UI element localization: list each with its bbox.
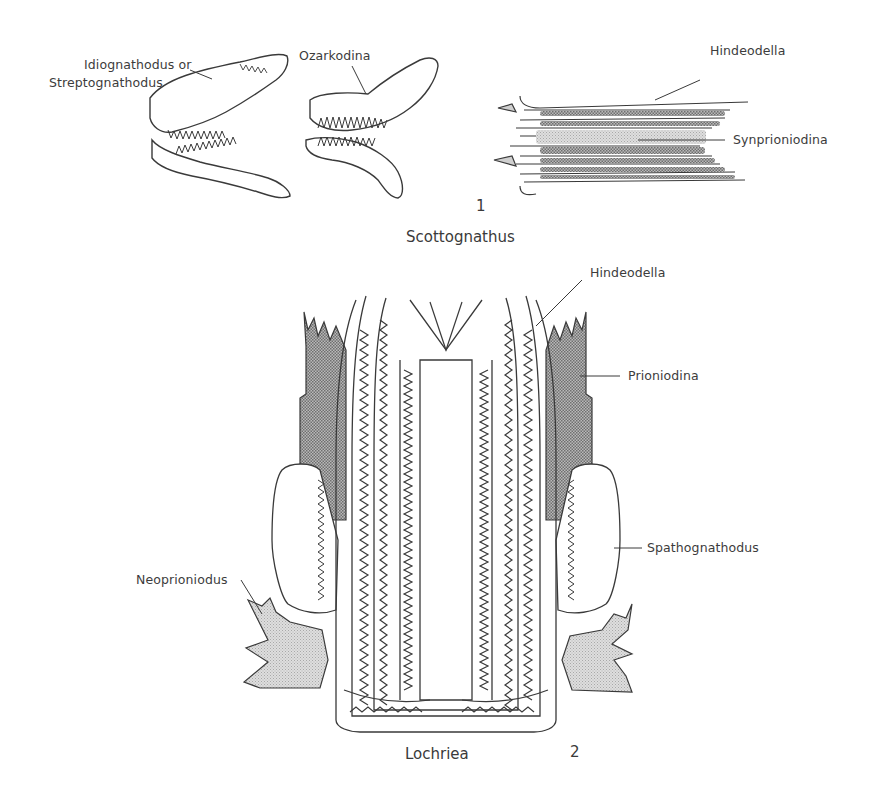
label-hindeodella-2: Hindeodella [590,265,665,280]
label-prioniodina: Prioniodina [628,368,699,383]
caption-lochriea: Lochriea [405,745,469,763]
figure-number-2: 2 [570,743,580,761]
bundle-denticles [536,111,735,179]
neoprioniodus-right [562,604,632,692]
leader-line [655,80,700,100]
ozarkodina-element [306,58,438,198]
hindeodella-synprioniodina-bundle [494,96,748,195]
figure-number-1: 1 [476,197,486,215]
label-synprioniodina: Synprioniodina [733,132,828,147]
label-streptognathodus: Streptognathodus [49,75,163,90]
label-neoprioniodus: Neoprioniodus [136,572,228,587]
conodont-figure [0,0,881,798]
hindeodella-central [336,296,556,732]
hindeodella-denticles [360,302,532,710]
caption-scottognathus: Scottognathus [406,228,515,246]
label-idiognathodus: Idiognathodus or [84,57,191,72]
label-ozarkodina: Ozarkodina [299,48,371,63]
idiognathodus-element [150,55,290,198]
leader-line [241,580,262,614]
label-hindeodella-1: Hindeodella [710,43,785,58]
label-spathognathodus: Spathognathodus [647,540,759,555]
leader-line [352,66,366,94]
leader-line [536,280,582,326]
